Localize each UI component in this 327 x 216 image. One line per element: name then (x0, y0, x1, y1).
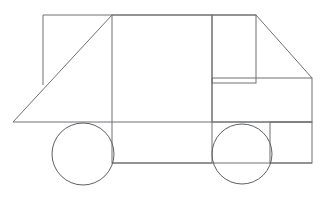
truck-line-drawing (0, 0, 327, 216)
drawing-canvas (0, 0, 327, 216)
canvas-background (0, 0, 327, 216)
